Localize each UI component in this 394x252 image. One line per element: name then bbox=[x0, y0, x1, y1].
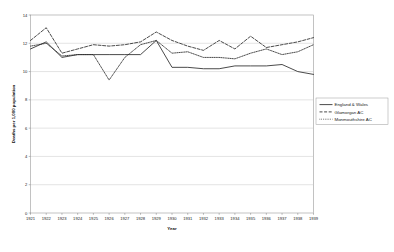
plot-area-frame bbox=[31, 15, 314, 213]
chart-canvas: 02468101214 1921192219231924192519261927… bbox=[0, 0, 394, 252]
x-tick-label: 1936 bbox=[262, 216, 272, 221]
x-tick-label: 1924 bbox=[73, 216, 83, 221]
x-tick-label: 1921 bbox=[26, 216, 36, 221]
x-tick-label: 1937 bbox=[278, 216, 288, 221]
x-tick-label: 1922 bbox=[42, 216, 52, 221]
x-axis-ticks: 1921192219231924192519261927192819291930… bbox=[26, 213, 319, 221]
y-tick-label: 10 bbox=[23, 69, 28, 74]
x-tick-label: 1925 bbox=[89, 216, 99, 221]
x-tick-label: 1939 bbox=[309, 216, 319, 221]
legend-label-0: England & Wales bbox=[335, 102, 369, 107]
y-tick-label: 8 bbox=[25, 97, 28, 102]
y-tick-label: 2 bbox=[25, 182, 28, 187]
legend-label-2: Monmouthshire AC bbox=[335, 117, 372, 122]
x-tick-label: 1933 bbox=[215, 216, 225, 221]
line-chart: 02468101214 1921192219231924192519261927… bbox=[0, 0, 394, 252]
x-tick-label: 1928 bbox=[136, 216, 146, 221]
y-tick-label: 0 bbox=[25, 211, 28, 216]
x-tick-label: 1935 bbox=[246, 216, 256, 221]
x-tick-label: 1927 bbox=[120, 216, 130, 221]
x-tick-label: 1934 bbox=[230, 216, 240, 221]
x-tick-label: 1931 bbox=[183, 216, 193, 221]
chart-legend: England & WalesGlamorgan ACMonmouthshire… bbox=[316, 98, 388, 125]
x-tick-label: 1929 bbox=[152, 216, 162, 221]
y-tick-label: 6 bbox=[25, 126, 28, 131]
x-tick-label: 1930 bbox=[167, 216, 177, 221]
y-tick-label: 14 bbox=[23, 13, 28, 18]
y-axis-ticks: 02468101214 bbox=[23, 13, 31, 216]
x-tick-label: 1926 bbox=[105, 216, 115, 221]
y-axis-title: Deaths per 1,000 population bbox=[11, 84, 16, 143]
x-axis-title: Year bbox=[167, 226, 177, 231]
y-tick-label: 4 bbox=[25, 154, 28, 159]
y-tick-label: 12 bbox=[23, 41, 28, 46]
x-tick-label: 1923 bbox=[57, 216, 67, 221]
x-tick-label: 1932 bbox=[199, 216, 209, 221]
legend-label-1: Glamorgan AC bbox=[335, 110, 364, 115]
plot-frame-group bbox=[31, 15, 314, 213]
x-tick-label: 1938 bbox=[293, 216, 303, 221]
